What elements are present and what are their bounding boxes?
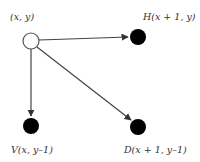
h-node-label: H(x + 1, y) [142,11,196,22]
origin-label: (x, y) [10,11,34,22]
edge-origin-to-h [39,37,128,40]
grid-neighbor-diagram: (x, y) H(x + 1, y) V(x, y–1) D(x + 1, y–… [0,0,200,162]
d-node-label: D(x + 1, y–1) [123,144,187,155]
origin-node [23,33,39,49]
v-node-label: V(x, y–1) [11,144,53,155]
edge-origin-to-d [37,47,131,120]
h-node [130,29,146,45]
d-node [130,119,146,135]
v-node [23,118,39,134]
